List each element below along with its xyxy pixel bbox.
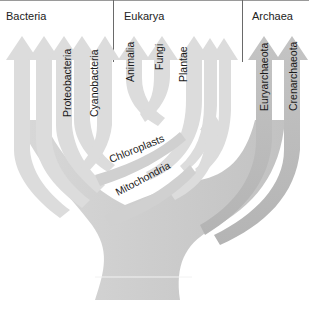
label-plantae: Plantae [177,46,189,82]
label-animalia: Animalia [124,42,136,82]
label-euryarchaeota: Euryarchaeota [258,43,270,111]
label-crenarchaeota: Crenarchaeota [287,41,299,111]
label-fungi: Fungi [153,44,165,70]
label-proteobacteria: Proteobacteria [61,49,73,117]
label-cyanobacteria: Cyanobacteria [88,49,100,117]
phylogenetic-tree: Proteobacteria Cyanobacteria Animalia Fu… [0,0,309,313]
